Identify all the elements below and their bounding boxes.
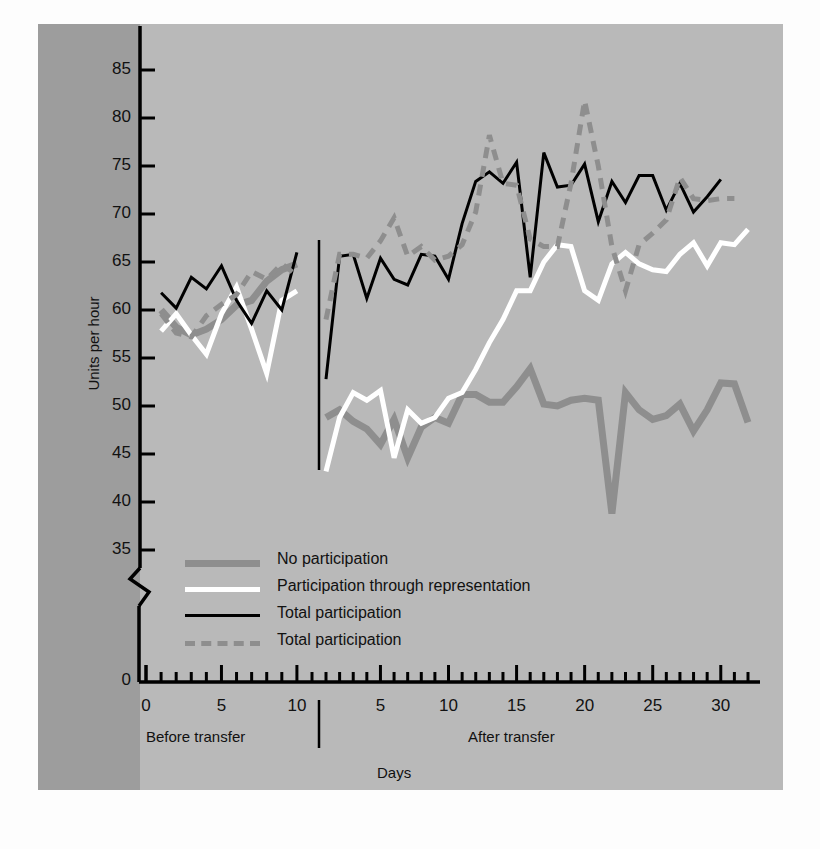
series-line xyxy=(326,153,721,380)
x-tick-label: 30 xyxy=(701,696,741,716)
y-tick-label: 65 xyxy=(91,251,131,271)
legend-label: Total participation xyxy=(277,631,402,649)
y-tick-label: 80 xyxy=(91,107,131,127)
y-tick-label: 50 xyxy=(91,395,131,415)
y-tick-label: 60 xyxy=(91,299,131,319)
y-tick-label: 55 xyxy=(91,347,131,367)
y-tick-label: 70 xyxy=(91,203,131,223)
x-tick-label: 10 xyxy=(429,696,469,716)
series-layer xyxy=(161,101,748,514)
series-line xyxy=(326,229,748,471)
y-tick-label: 75 xyxy=(91,155,131,175)
y-tick-label: 35 xyxy=(91,539,131,559)
x-axis-title: Days xyxy=(377,764,411,781)
legend-swatch xyxy=(185,560,260,567)
chart-canvas xyxy=(0,0,820,849)
axes-layer xyxy=(130,26,760,748)
legend-swatch xyxy=(185,614,260,617)
x-tick-label: 5 xyxy=(360,696,400,716)
x-segment-label: After transfer xyxy=(468,728,555,745)
legend-swatch xyxy=(185,587,260,592)
y-tick-label: 85 xyxy=(91,59,131,79)
y-tick-label: 40 xyxy=(91,491,131,511)
y-axis-break xyxy=(130,568,149,606)
x-tick-label: 10 xyxy=(277,696,317,716)
legend-label: No participation xyxy=(277,550,388,568)
legend-swatch xyxy=(185,641,260,646)
x-tick-label: 15 xyxy=(497,696,537,716)
x-tick-label: 20 xyxy=(565,696,605,716)
x-segment-label: Before transfer xyxy=(146,728,245,745)
legend-label: Participation through representation xyxy=(277,577,531,595)
x-tick-label: 5 xyxy=(201,696,241,716)
chart-figure: Units per hour 35404550556065707580850 0… xyxy=(0,0,820,849)
legend-label: Total participation xyxy=(277,604,402,622)
x-tick-label: 25 xyxy=(633,696,673,716)
y-tick-label-zero: 0 xyxy=(91,670,131,690)
x-tick-label: 0 xyxy=(126,696,166,716)
y-tick-label: 45 xyxy=(91,443,131,463)
